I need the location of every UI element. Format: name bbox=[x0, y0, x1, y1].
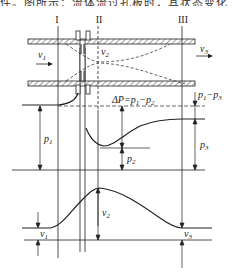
v1-velocity-label: v1 bbox=[40, 228, 48, 241]
v2-dimension bbox=[96, 188, 100, 240]
p2-label: p2 bbox=[126, 153, 136, 166]
section-lines bbox=[58, 26, 182, 258]
pipe-v2-label: v2 bbox=[101, 46, 109, 59]
velocity-curve bbox=[22, 188, 212, 228]
orifice-flow-diagram: I II III v1 v2 v3 bbox=[0, 0, 233, 276]
pipe-wall bbox=[28, 39, 195, 86]
p1-dimension bbox=[38, 106, 42, 170]
v3-velocity-label: v3 bbox=[184, 228, 192, 241]
pipe-v1-label: v1 bbox=[38, 49, 46, 62]
pressure-loss-label: p1−p3 bbox=[197, 89, 222, 102]
section-label-2: II bbox=[96, 14, 103, 25]
p3-label: p3 bbox=[199, 139, 209, 152]
section-label-1: I bbox=[55, 14, 58, 25]
pipe-v3-label: v3 bbox=[200, 43, 208, 56]
p1-label: p1 bbox=[43, 133, 53, 146]
p3-dimension bbox=[193, 92, 197, 170]
section-label-3: III bbox=[178, 14, 188, 25]
v2-velocity-label: v2 bbox=[102, 207, 110, 220]
delta-p-label: ΔP=p1−p2 bbox=[111, 94, 155, 107]
